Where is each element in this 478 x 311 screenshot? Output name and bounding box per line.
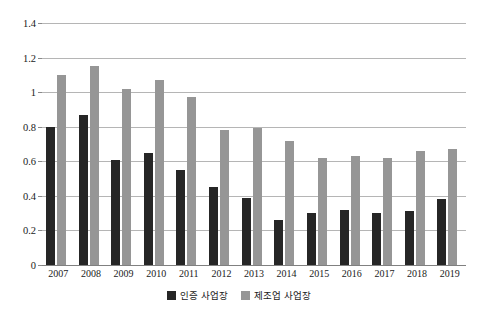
- bar: [416, 151, 425, 265]
- plot-area: [42, 23, 466, 265]
- axis-baseline: [42, 265, 466, 266]
- legend-label: 인증 사업장: [180, 288, 228, 302]
- bar-group: [140, 23, 173, 265]
- y-tick-label: 0.8: [23, 121, 36, 132]
- bar: [79, 115, 88, 265]
- legend-item: 제조업 사업장: [241, 288, 311, 302]
- y-tick-label: 0.4: [23, 190, 36, 201]
- bar: [90, 66, 99, 265]
- bar-group: [433, 23, 466, 265]
- bar: [307, 213, 316, 265]
- bar: [209, 187, 218, 265]
- bar-group: [107, 23, 140, 265]
- bar: [351, 156, 360, 265]
- bar-group: [205, 23, 238, 265]
- x-axis: 2007200820092010201120122013201420152016…: [42, 268, 466, 284]
- legend-item: 인증 사업장: [167, 288, 228, 302]
- bar: [144, 153, 153, 265]
- bar: [122, 89, 131, 265]
- bar-group: [401, 23, 434, 265]
- y-tick-label: 0.6: [23, 156, 36, 167]
- bar: [253, 128, 262, 265]
- y-tick-label: 1: [31, 87, 36, 98]
- bar: [274, 220, 283, 265]
- bar: [285, 141, 294, 265]
- y-tick-mark: [38, 23, 42, 24]
- bar: [437, 199, 446, 265]
- y-tick-label: 0: [31, 260, 36, 271]
- y-axis: 00.20.40.60.811.21.4: [0, 23, 36, 265]
- bar-group: [75, 23, 108, 265]
- y-tick-mark: [38, 161, 42, 162]
- bar: [176, 170, 185, 265]
- y-tick-mark: [38, 92, 42, 93]
- y-tick-mark: [38, 127, 42, 128]
- bar: [46, 127, 55, 265]
- y-tick-mark: [38, 196, 42, 197]
- bar: [383, 158, 392, 265]
- bar: [405, 211, 414, 265]
- y-tick-label: 1.4: [23, 18, 36, 29]
- x-tick-label: 2019: [430, 268, 470, 279]
- bar: [242, 198, 251, 265]
- y-tick-mark: [38, 265, 42, 266]
- bar: [57, 75, 66, 265]
- bar-group: [42, 23, 75, 265]
- y-tick-label: 1.2: [23, 52, 36, 63]
- bar-group: [368, 23, 401, 265]
- chart-figure: 00.20.40.60.811.21.4 2007200820092010201…: [0, 0, 478, 311]
- bar-group: [303, 23, 336, 265]
- y-tick-mark: [38, 58, 42, 59]
- y-tick-mark: [38, 230, 42, 231]
- legend-swatch-icon: [167, 291, 176, 300]
- bar: [111, 160, 120, 265]
- bar-group: [238, 23, 271, 265]
- bar-group: [172, 23, 205, 265]
- bar: [448, 149, 457, 265]
- chart-legend: 인증 사업장제조업 사업장: [0, 288, 478, 302]
- bar-series-container: [42, 23, 466, 265]
- bar: [220, 130, 229, 265]
- bar: [155, 80, 164, 265]
- legend-swatch-icon: [241, 291, 250, 300]
- bar-group: [336, 23, 369, 265]
- y-tick-label: 0.2: [23, 225, 36, 236]
- bar: [318, 158, 327, 265]
- bar: [187, 97, 196, 265]
- bar: [372, 213, 381, 265]
- legend-label: 제조업 사업장: [254, 288, 311, 302]
- bar: [340, 210, 349, 265]
- bar-group: [270, 23, 303, 265]
